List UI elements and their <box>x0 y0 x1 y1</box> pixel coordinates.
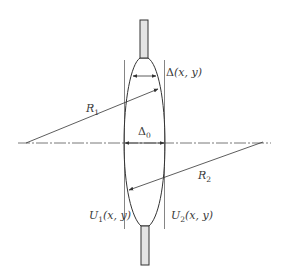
label-u1: U1(x, y) <box>89 210 131 224</box>
lens-diagram: Δ(x, y) R1 Δ0 R2 U1(x, y) U2(x, y) <box>0 0 286 276</box>
label-u1-symbol: U <box>89 209 98 222</box>
label-r2: R2 <box>198 170 211 184</box>
label-r1: R1 <box>86 103 99 117</box>
label-delta-xy: Δ(x, y) <box>166 67 202 78</box>
label-delta0: Δ0 <box>138 126 151 140</box>
label-u2-symbol: U <box>171 209 180 222</box>
label-r1-sub: 1 <box>94 108 99 117</box>
lens-profile <box>124 58 165 226</box>
label-u2-args: (x, y) <box>185 209 213 222</box>
label-u2: U2(x, y) <box>171 210 213 224</box>
top-rod <box>140 20 148 58</box>
label-r2-sub: 2 <box>206 175 211 184</box>
label-delta-symbol: Δ <box>166 66 174 79</box>
label-delta0-symbol: Δ <box>138 125 146 138</box>
bottom-rod <box>141 226 149 265</box>
label-delta-args: (x, y) <box>174 66 202 79</box>
label-u1-args: (x, y) <box>103 209 131 222</box>
radius-r2-arrow <box>129 142 263 190</box>
label-delta0-sub: 0 <box>146 131 151 140</box>
